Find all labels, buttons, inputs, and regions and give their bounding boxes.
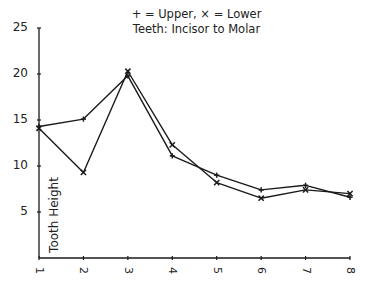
- y-tick-label: 5: [6, 204, 28, 218]
- axes: [37, 28, 350, 260]
- x-tick-label: 8: [344, 265, 357, 277]
- y-tick-label: 15: [6, 112, 28, 126]
- x-tick-label: 1: [33, 265, 46, 277]
- y-tick-label: 20: [6, 66, 28, 80]
- cross-marker-icon: [81, 170, 86, 175]
- cross-marker-icon: [125, 69, 130, 74]
- cross-marker-icon: [170, 142, 175, 147]
- y-axis-label: Tooth Height: [47, 175, 61, 255]
- chart-subtitle: Teeth: Incisor to Molar: [10, 22, 373, 36]
- chart-title: + = Upper, × = Lower: [10, 7, 373, 21]
- x-tick-label: 4: [166, 265, 179, 277]
- series-markers: [36, 69, 352, 201]
- x-tick-label: 7: [299, 265, 312, 277]
- plus-marker-icon: [214, 173, 219, 178]
- series-line-upper: [39, 76, 350, 197]
- x-tick-label: 5: [210, 265, 223, 277]
- x-tick-label: 2: [77, 265, 90, 277]
- x-tick-label: 3: [121, 265, 134, 277]
- series-line-lower: [39, 71, 350, 198]
- x-tick-label: 6: [255, 265, 268, 277]
- y-tick-label: 25: [6, 20, 28, 34]
- plus-marker-icon: [170, 153, 175, 158]
- series-lines: [39, 71, 350, 198]
- plus-marker-icon: [259, 187, 264, 192]
- y-tick-label: 10: [6, 158, 28, 172]
